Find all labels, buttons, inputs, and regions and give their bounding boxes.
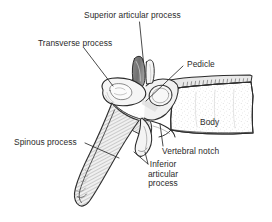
label-vertebral-notch: Vertebral notch (162, 147, 219, 157)
label-transverse-process: Transverse process (38, 39, 112, 49)
spinous-process (74, 103, 139, 206)
label-body: Body (200, 118, 219, 128)
vertebra-diagram-figure: Superior articular process Transverse pr… (0, 0, 272, 222)
label-inferior-articular-process-line3: process (133, 179, 193, 189)
leader-vertebral-notch (160, 124, 163, 146)
label-spinous-process: Spinous process (14, 138, 77, 148)
label-inferior-articular-process: Inferior articular process (133, 160, 193, 189)
label-superior-articular-process: Superior articular process (84, 11, 181, 21)
label-pedicle: Pedicle (187, 60, 215, 70)
leader-transverse-process (84, 48, 113, 86)
